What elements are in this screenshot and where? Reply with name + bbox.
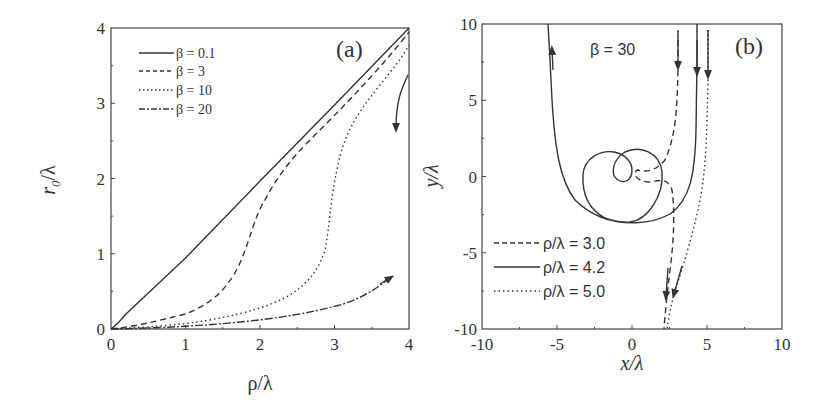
branch-arrow-a [396, 75, 408, 128]
legend-label: β = 10 [176, 83, 212, 98]
series-rho-5.0 [667, 30, 708, 329]
x-tick-label-a: 3 [330, 335, 339, 354]
x-tick-label-a: 0 [107, 335, 116, 354]
x-axis-label-b: x/λ [619, 352, 643, 374]
x-tick-label-a: 1 [181, 335, 190, 354]
x-tick-label-b: 5 [703, 335, 712, 354]
y-tick-label-a: 2 [97, 170, 106, 189]
series-rho-3.0 [635, 30, 678, 329]
beta-annotation: β = 30 [590, 41, 635, 58]
x-tick-label-b: -5 [550, 335, 564, 354]
y-tick-label-b: -5 [463, 244, 477, 263]
series-beta-0.1 [111, 28, 409, 329]
y-tick-label-a: 3 [97, 94, 106, 113]
arrow-rho-4.2-left [552, 50, 553, 70]
y-axis-label-b: y/λ [420, 164, 443, 189]
y-axis-label-a: r0/λ [37, 165, 63, 195]
legend-label: β = 0.1 [176, 46, 216, 61]
x-tick-label-a: 2 [256, 335, 265, 354]
y-tick-label-b: 10 [460, 15, 477, 34]
y-tick-label-a: 1 [97, 245, 106, 264]
arrow-rho-5.0-bottom [674, 266, 682, 294]
svg-text:r0/λ: r0/λ [37, 165, 63, 195]
y-tick-label-b: 5 [469, 91, 478, 110]
panel-label-b: (b) [735, 33, 763, 59]
svg-text:y/λ: y/λ [420, 164, 443, 189]
panel-label-a: (a) [336, 36, 363, 62]
x-tick-label-b: 10 [774, 335, 791, 354]
y-tick-label-b: 0 [469, 168, 478, 187]
y-tick-label-a: 0 [97, 320, 106, 339]
legend-label: β = 3 [176, 64, 205, 79]
x-axis-label-a: ρ/λ [247, 372, 273, 395]
legend-label: ρ/λ = 5.0 [543, 283, 605, 300]
x-tick-label-a: 4 [405, 335, 414, 354]
plot-area-b [482, 24, 782, 329]
panel-a: 0 1 2 3 4 0 1 2 3 4 ρ/λ r0/λ (a) [37, 19, 414, 395]
y-tick-label-a: 4 [97, 19, 106, 38]
legend-label: ρ/λ = 3.0 [543, 235, 605, 252]
y-tick-label-b: -10 [454, 320, 477, 339]
legend-label: β = 20 [176, 102, 212, 117]
plot-area-a [111, 28, 409, 329]
panel-b: -10 -5 0 5 10 -10 -5 0 5 10 x/λ y/λ (b) … [420, 15, 791, 374]
arrow-beta-20 [380, 278, 390, 284]
legend-a: β = 0.1 β = 3 β = 10 β = 20 [139, 46, 216, 117]
legend-b: ρ/λ = 3.0 ρ/λ = 4.2 ρ/λ = 5.0 [494, 235, 605, 300]
legend-label: ρ/λ = 4.2 [543, 259, 605, 276]
